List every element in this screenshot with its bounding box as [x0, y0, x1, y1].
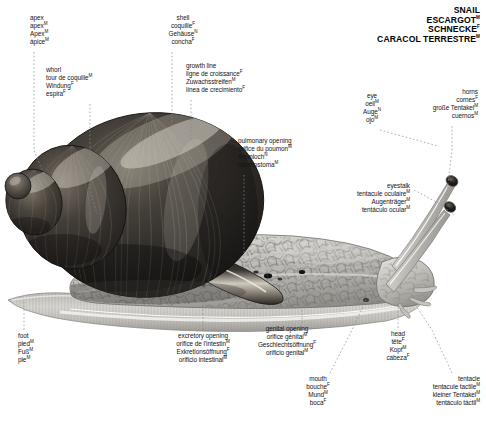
label-line: tentáculo táctilM: [433, 399, 480, 407]
label-line: eyestalk: [357, 182, 410, 190]
leader-growth-line: [191, 100, 204, 158]
label-line: orificio genitalM: [258, 349, 316, 357]
label-excretory-opening: excretory openingorifice de l'intestinME…: [176, 332, 229, 364]
label-growth-line: growth lineligne de croissanceFZuwachsst…: [186, 62, 245, 94]
label-line: cabezaF: [386, 354, 409, 362]
leader-horns: [446, 126, 452, 200]
leader-eye: [380, 130, 438, 146]
label-tentacle: tentacletentacule tactileMkleiner Tentak…: [433, 375, 480, 407]
label-eye: eyeoeilMAugeNojoM: [363, 92, 381, 124]
label-line: línea de crecimientoF: [186, 86, 245, 94]
label-line: neumostomaM: [238, 161, 292, 169]
label-line: orifice de l'intestinM: [176, 340, 229, 348]
leader-apex: [34, 52, 44, 175]
label-line: horns: [433, 88, 478, 96]
label-line: growth line: [186, 62, 245, 70]
leader-pulmonary-opening: [244, 175, 268, 276]
leader-tentacle: [412, 300, 452, 373]
label-apex: apexapexMApexMápiceM: [30, 14, 49, 46]
label-line: espiraF: [46, 90, 92, 98]
title-line: CARACOL TERRESTREM: [377, 35, 480, 45]
illustration-canvas: SNAILESCARGOTMSCHNECKEFCARACOL TERRESTRE…: [0, 0, 486, 423]
label-shell: shellcoquilleFGehäuseNconchaF: [169, 14, 198, 46]
label-line: tour de coquilleM: [46, 74, 92, 82]
label-line: cuernosM: [433, 112, 478, 120]
label-line: ojoM: [363, 116, 381, 124]
leader-mouth: [330, 300, 366, 373]
label-line: conchaF: [169, 38, 198, 46]
label-whorl: whorltour de coquilleMWindungFespiraF: [46, 66, 92, 98]
leader-eyestalk: [414, 190, 455, 216]
label-head: headtêteFKopfMcabezaF: [386, 330, 409, 362]
label-line: ligne de croissanceF: [186, 70, 245, 78]
label-line: whorl: [46, 66, 92, 74]
label-line: tentacle: [433, 375, 480, 383]
label-foot: footpiedMFußMpieM: [18, 332, 34, 364]
label-line: pieM: [18, 356, 34, 364]
label-line: head: [386, 330, 409, 338]
label-line: excretory opening: [176, 332, 229, 340]
page-title: SNAILESCARGOTMSCHNECKEFCARACOL TERRESTRE…: [377, 6, 480, 44]
label-line: orifice génitalM: [258, 333, 316, 341]
label-line: pulmonary opening: [238, 137, 292, 145]
label-eyestalk: eyestalktentacule oculaireMAugenträgerMt…: [357, 182, 410, 214]
label-line: tentacule tactileM: [433, 383, 480, 391]
label-line: genital opening: [258, 325, 316, 333]
label-mouth: mouthboucheFMundMbocaF: [306, 375, 329, 407]
leader-whorl: [90, 104, 97, 214]
label-line: orificio intestinalM: [176, 356, 229, 364]
label-line: coquilleF: [169, 22, 198, 30]
label-line: ápiceM: [30, 38, 49, 46]
label-line: cornesF: [433, 96, 478, 104]
label-genital-opening: genital openingorifice génitalMGeschlech…: [258, 325, 316, 357]
label-line: bocaF: [306, 399, 329, 407]
label-line: tentáculo ocularM: [357, 206, 410, 214]
label-line: tentacule oculaireM: [357, 190, 410, 198]
label-pulmonary-opening: pulmonary openingorifice du poumonMAteml…: [238, 137, 292, 169]
label-horns: hornscornesFgroße TentakelMcuernosM: [433, 88, 478, 120]
